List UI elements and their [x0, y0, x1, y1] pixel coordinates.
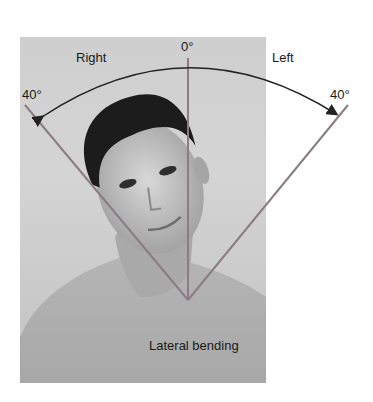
- left-label: Left: [272, 51, 294, 64]
- right-40-line: [25, 105, 188, 300]
- lateral-bending-figure: 0° Right Left 40° 40° Lateral bending: [0, 0, 373, 402]
- right-angle-label: 40°: [22, 88, 42, 101]
- zero-degree-label: 0°: [181, 40, 193, 53]
- left-angle-label: 40°: [330, 88, 350, 101]
- left-40-line: [188, 105, 348, 300]
- caption-label: Lateral bending: [149, 339, 239, 352]
- right-label: Right: [76, 51, 106, 64]
